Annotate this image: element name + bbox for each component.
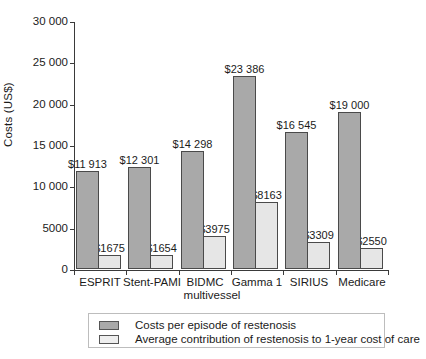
x-axis-tick-mark [74,271,75,275]
plot-area: $11 913$1675$12 301$1654$14 298$3975$23 … [74,22,388,270]
y-axis-tick-label: 0 [8,264,68,276]
bar: $16 545 [285,132,308,269]
x-axis-tick-mark [388,271,389,275]
bar-group: $14 298$3975 [179,21,231,269]
bar-group: $23 386$8163 [231,21,283,269]
legend-item: Average contribution of restenosis to 1-… [99,332,420,346]
bar: $14 298 [181,151,204,269]
legend-item-label: Average contribution of restenosis to 1-… [135,333,420,345]
bar-value-label: $23 386 [225,64,265,75]
bar: $1654 [150,255,173,269]
legend-item: Costs per episode of restenosis [99,318,296,332]
bar-value-label: $16 545 [277,120,317,131]
bar: $12 301 [128,167,151,269]
x-axis-category-label-line: ESPRIT [79,276,121,288]
bar-value-label: $11 913 [68,159,107,170]
x-axis-category-label-line: Medicare [338,276,385,288]
bar: $23 386 [233,76,256,269]
bar: $19 000 [338,112,361,269]
x-axis-tick-mark [179,271,180,275]
bar-chart-figure: Costs (US$) 30 00025 00020 00015 00010 0… [0,0,426,359]
y-axis-tick-label: 15 000 [8,140,68,152]
x-axis-category-label-line: BIDMC [186,276,223,288]
chart-legend: Costs per episode of restenosis Average … [88,313,385,348]
y-axis-tick-label: 25 000 [8,57,68,69]
legend-item-label: Costs per episode of restenosis [135,319,296,331]
y-axis-tick-label: 30 000 [8,16,68,28]
x-axis-tick-mark [336,271,337,275]
y-axis-tick-labels: 30 00025 00020 00015 00010 00050000 [4,0,68,359]
bar-value-label: $14 298 [173,139,213,150]
x-axis-category-label: Medicare [326,276,398,289]
bar: $8163 [255,202,278,269]
legend-swatch-dark [99,321,119,330]
bar-group: $16 545$3309 [283,21,335,269]
legend-swatch-light [99,335,119,344]
bar: $3309 [307,242,330,269]
bar-value-label: $12 301 [120,155,160,166]
x-axis-tick-mark [283,271,284,275]
bar: $2550 [360,248,383,269]
y-axis-tick-label: 20 000 [8,99,68,111]
bar: $3975 [203,236,226,269]
bar-group: $19 000$2550 [336,21,388,269]
y-axis-tick-label: 5000 [8,223,68,235]
x-axis-category-label-line: SIRIUS [290,276,328,288]
bar-group: $12 301$1654 [126,21,178,269]
bar-group: $11 913$1675 [74,21,126,269]
bar: $11 913 [76,171,99,269]
x-axis-tick-mark [126,271,127,275]
bar-value-label: $19 000 [330,100,370,111]
x-axis-tick-mark [231,271,232,275]
y-axis-tick-label: 10 000 [8,181,68,193]
bar: $1675 [98,255,121,269]
x-axis-category-label-line: multivessel [176,289,248,302]
